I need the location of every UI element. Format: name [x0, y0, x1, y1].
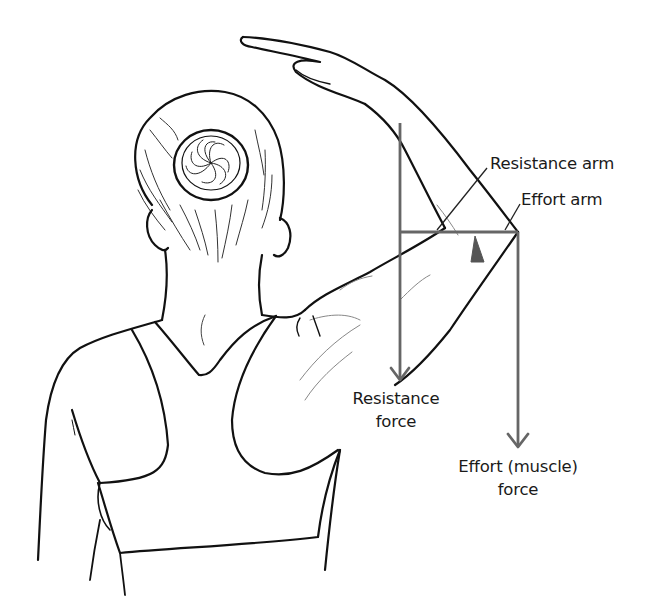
- figure-line-art: [38, 37, 518, 595]
- effort-force-label-line1: Effort (muscle): [448, 457, 588, 477]
- resistance-force-label: Resistance force: [346, 389, 446, 432]
- neck-left: [162, 250, 167, 320]
- upper-arm-top: [305, 228, 445, 310]
- right-shoulder-top: [262, 310, 305, 317]
- resistance-arm-leader: [437, 168, 487, 230]
- left-waist: [90, 520, 100, 580]
- lever-diagram: [0, 0, 659, 604]
- resistance-arm-label: Resistance arm: [490, 154, 614, 174]
- upper-arm-bottom: [395, 232, 518, 385]
- bra-right-strap-outer: [232, 316, 338, 474]
- resistance-force-label-line2: force: [346, 412, 446, 432]
- hand: [241, 37, 365, 104]
- bra-left-strap-outer: [72, 330, 168, 483]
- right-ear: [274, 218, 290, 256]
- bra-bottom-band: [98, 450, 340, 553]
- effort-force-label: Effort (muscle) force: [448, 457, 588, 500]
- hand-top: [243, 37, 518, 232]
- center-waist: [120, 553, 125, 595]
- resistance-force-label-line1: Resistance: [346, 389, 446, 409]
- effort-arm-label: Effort arm: [521, 190, 602, 210]
- neck-right: [259, 255, 262, 315]
- fulcrum-triangle: [471, 236, 484, 262]
- effort-force-label-line2: force: [448, 480, 588, 500]
